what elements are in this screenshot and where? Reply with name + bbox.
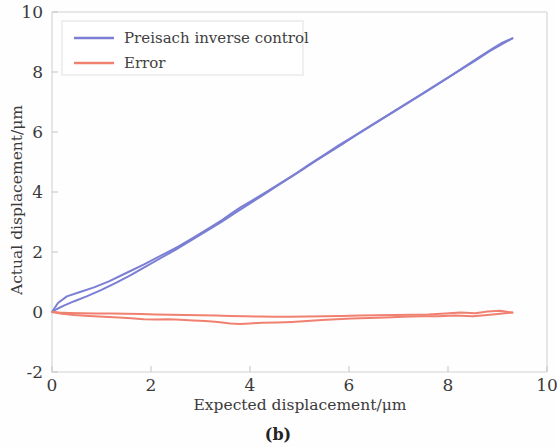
y-tick-label: -2 (26, 362, 43, 382)
legend-label-error: Error (124, 54, 166, 72)
chart-canvas: -202468100246810 Actual displacement/μm … (0, 0, 557, 447)
x-tick-label: 10 (536, 375, 557, 395)
x-tick-label: 0 (47, 375, 58, 395)
data-series-group (52, 38, 512, 324)
y-tick-label: 0 (32, 302, 43, 322)
x-tick-label: 4 (245, 375, 256, 395)
series-line-preisach-inverse-control-descending (52, 38, 512, 312)
x-tick-label: 2 (146, 375, 157, 395)
figure-caption: (b) (265, 425, 291, 444)
x-tick-label: 6 (344, 375, 355, 395)
y-axis-title: Actual displacement/μm (8, 105, 26, 296)
legend-label-preisach-inverse-control: Preisach inverse control (124, 29, 309, 47)
legend: Preisach inverse control Error (62, 21, 309, 75)
y-tick-label: 8 (32, 62, 43, 82)
y-tick-label: 4 (32, 182, 43, 202)
x-tick-label: 8 (443, 375, 454, 395)
y-tick-label: 6 (32, 122, 43, 142)
x-axis-title: Expected displacement/μm (194, 396, 407, 414)
y-tick-label: 2 (32, 242, 43, 262)
y-tick-label: 10 (21, 2, 43, 22)
figure-panel: -202468100246810 Actual displacement/μm … (0, 0, 557, 447)
